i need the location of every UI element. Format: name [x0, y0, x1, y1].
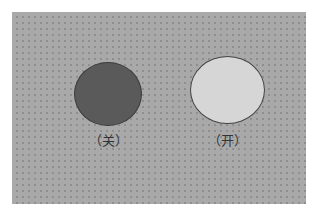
lamp-off-label: （关）: [78, 130, 138, 149]
lamp-on-label: （开）: [197, 130, 257, 149]
lamp-on-circle: [190, 56, 265, 124]
lamp-off-circle: [74, 62, 142, 126]
dotted-background-panel: （关） （开）: [12, 12, 306, 204]
